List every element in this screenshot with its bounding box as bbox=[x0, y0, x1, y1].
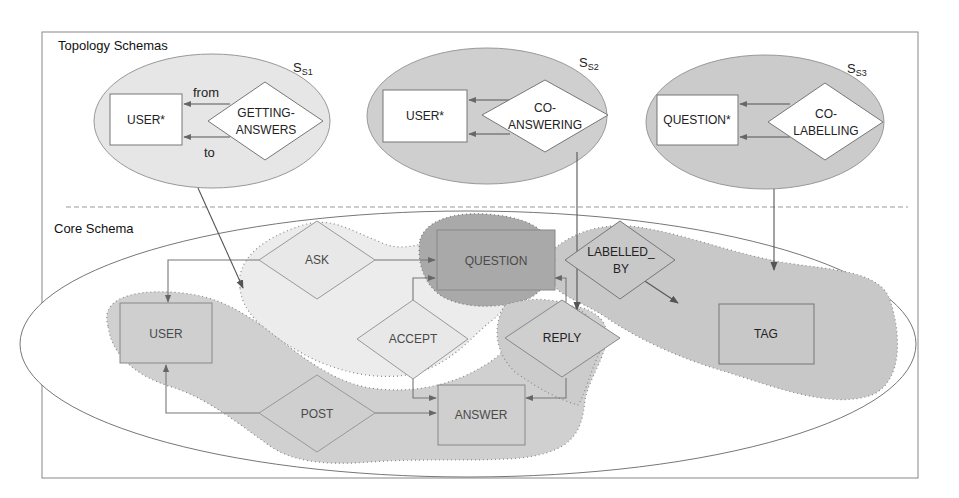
topology-schemas-title: Topology Schemas bbox=[58, 38, 168, 53]
s1-relation-label-line1: GETTING- bbox=[237, 106, 294, 120]
s3-relation-label-line1: CO- bbox=[815, 107, 837, 121]
s1-from-label: from bbox=[193, 85, 219, 100]
topology-schema-s3: SS3 QUESTION* CO- LABELLING bbox=[646, 55, 884, 189]
s1-relation-label-line2: ANSWERS bbox=[236, 123, 297, 137]
s2-entity-label: USER* bbox=[406, 109, 444, 123]
core-schema-title: Core Schema bbox=[54, 221, 134, 236]
core-relation-ask-label: ASK bbox=[305, 253, 329, 267]
core-entity-tag-label: TAG bbox=[754, 327, 778, 341]
topology-schema-s1: SS1 USER* from to GETTING- ANSWERS bbox=[94, 54, 330, 188]
s2-relation-label-line2: ANSWERING bbox=[508, 118, 582, 132]
s1-to-label: to bbox=[204, 145, 215, 160]
core-entity-answer-label: ANSWER bbox=[455, 408, 508, 422]
core-relation-accept-label: ACCEPT bbox=[389, 332, 438, 346]
s3-entity-label: QUESTION* bbox=[663, 113, 731, 127]
topology-schema-s2: SS2 USER* CO- ANSWERING bbox=[367, 48, 608, 184]
core-relation-labelled-by-line2: BY bbox=[613, 262, 629, 276]
core-relation-reply-label: REPLY bbox=[543, 331, 581, 345]
core-entity-user-label: USER bbox=[149, 327, 183, 341]
s1-entity-label: USER* bbox=[127, 113, 165, 127]
core-relation-labelled-by-line1: LABELLED_ bbox=[587, 245, 655, 259]
core-relation-post-label: POST bbox=[301, 407, 334, 421]
s3-relation-label-line2: LABELLING bbox=[793, 124, 858, 138]
core-entity-question-label: QUESTION bbox=[465, 254, 528, 268]
schema-diagram: Topology Schemas Core Schema SS1 USER* f… bbox=[0, 0, 959, 498]
s2-relation-label-line1: CO- bbox=[534, 101, 556, 115]
